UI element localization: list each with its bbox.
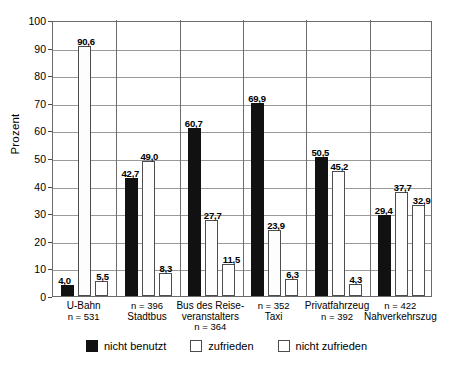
y-axis-tick-label: 40 (8, 182, 46, 192)
y-axis-tick-label: 30 (8, 209, 46, 219)
bar-zufrieden (268, 230, 281, 296)
bar-value-label: 4,3 (350, 275, 363, 284)
bar-chart: Prozent 1009080706050403020100 4,090,65,… (0, 0, 453, 373)
bar-value-label: 37,7 (394, 183, 412, 192)
bar-value-label: 29,4 (375, 206, 393, 215)
bar-nicht-benutzt (125, 178, 138, 296)
bar-zufrieden (78, 46, 91, 296)
bar-value-label: 32,9 (413, 196, 431, 205)
legend-label: zufrieden (208, 340, 253, 352)
plot-area: 4,090,65,542,749,08,360,727,711,569,923,… (52, 21, 432, 297)
bar-value-label: 69,9 (248, 94, 266, 103)
category-n-label: n = 364 (140, 322, 280, 333)
legend-swatch-outlined-white-square (278, 340, 290, 352)
legend-label: nicht zufrieden (296, 340, 368, 352)
bar-nicht-zufrieden (349, 284, 362, 296)
bar-zufrieden (142, 161, 155, 296)
y-axis-tick-label: 50 (8, 154, 46, 164)
bar-nicht-benutzt (61, 285, 74, 296)
gridline (53, 77, 431, 78)
gridline (53, 50, 431, 51)
y-axis-tick-label: 90 (8, 44, 46, 54)
category-separator (116, 20, 117, 296)
category-separator (243, 20, 244, 296)
gridline (53, 160, 431, 161)
bar-value-label: 11,5 (223, 255, 240, 264)
bar-nicht-benutzt (188, 128, 201, 296)
legend-item: zufrieden (190, 340, 253, 352)
gridline (53, 188, 431, 189)
category-separator (306, 20, 307, 296)
legend-item: nicht zufrieden (278, 340, 368, 352)
legend-item: nicht benutzt (86, 340, 166, 352)
bar-nicht-zufrieden (285, 279, 298, 296)
bar-zufrieden (332, 171, 345, 296)
y-axis-tick-label: 80 (8, 71, 46, 81)
y-axis-tick-label: 100 (8, 16, 46, 26)
chart-legend: nicht benutztzufriedennicht zufrieden (0, 340, 453, 352)
bar-nicht-zufrieden (95, 281, 108, 296)
legend-label: nicht benutzt (104, 340, 166, 352)
legend-swatch-filled-black-square (86, 340, 98, 352)
bar-value-label: 60,7 (185, 119, 203, 128)
bar-value-label: 6,3 (286, 270, 299, 279)
gridline (53, 270, 431, 271)
bar-value-label: 50,5 (312, 148, 330, 157)
bar-value-label: 42,7 (122, 169, 140, 178)
legend-swatch-dotted-white-square (190, 340, 202, 352)
category-n-label: n = 422 (330, 301, 453, 312)
bar-value-label: 23,9 (267, 221, 285, 230)
bar-nicht-benutzt (251, 103, 264, 296)
bar-value-label: 90,6 (77, 37, 95, 46)
bar-nicht-benutzt (315, 157, 328, 296)
y-axis-tick-label: 60 (8, 126, 46, 136)
y-axis-tick-label: 70 (8, 99, 46, 109)
bar-zufrieden (205, 220, 218, 296)
bar-value-label: 49,0 (141, 152, 159, 161)
bar-value-label: 27,7 (204, 211, 222, 220)
bar-value-label: 5,5 (96, 272, 109, 281)
gridline (53, 105, 431, 106)
y-axis-tick-label: 10 (8, 264, 46, 274)
bar-nicht-zufrieden (412, 205, 425, 296)
bar-nicht-zufrieden (222, 264, 235, 296)
gridline (53, 132, 431, 133)
bar-nicht-benutzt (378, 215, 391, 296)
bar-zufrieden (395, 192, 408, 296)
x-axis-category: n = 422Nahverkehrszug (330, 301, 453, 322)
y-axis-tick-mark (48, 297, 52, 298)
category-separator (370, 20, 371, 296)
bar-nicht-zufrieden (159, 273, 172, 296)
y-axis-tick-label: 20 (8, 237, 46, 247)
bar-value-label: 45,2 (331, 162, 349, 171)
category-name-label: Nahverkehrszug (330, 312, 453, 323)
category-separator (180, 20, 181, 296)
bar-value-label: 4,0 (58, 276, 71, 285)
gridline (53, 243, 431, 244)
bar-value-label: 8,3 (160, 264, 173, 273)
